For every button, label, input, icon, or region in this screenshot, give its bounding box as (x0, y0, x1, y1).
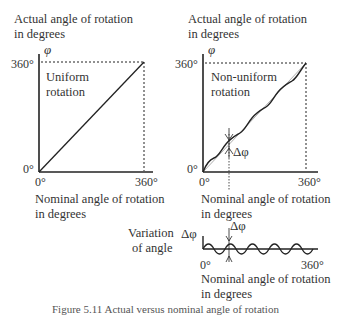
variation-plot (203, 228, 318, 262)
right-plot (203, 54, 318, 190)
uniform-rotation-line (39, 62, 144, 172)
left-plot (39, 54, 153, 172)
ideal-rotation-line (203, 63, 306, 172)
figure-caption: Figure 5.11 Actual versus nominal angle … (52, 303, 279, 315)
